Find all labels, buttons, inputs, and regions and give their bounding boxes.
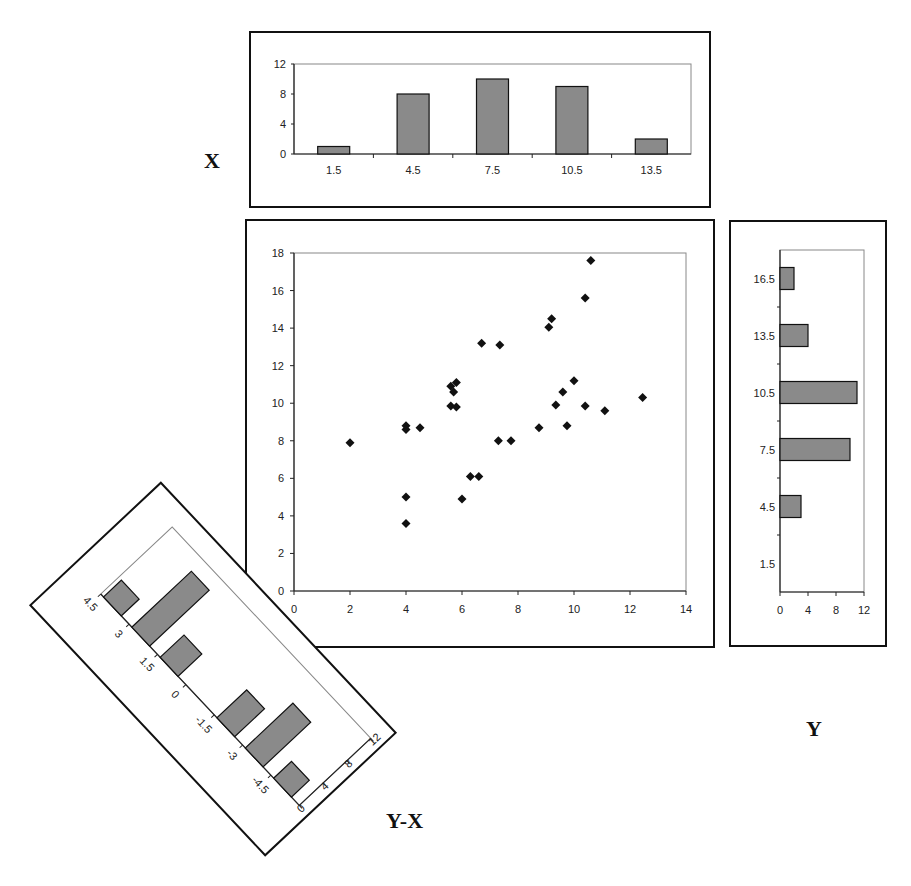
x-histogram-panel: 048121.54.57.510.513.5 <box>250 32 710 207</box>
histogram-bar <box>780 268 794 290</box>
y-minus-x-frame <box>30 483 395 856</box>
y-minus-x-histogram-panel: 048124.531.50-1.5-3-4.5 <box>30 483 395 856</box>
diamond-marker <box>581 402 590 411</box>
x-tick-label: 0 <box>291 603 297 615</box>
histogram-bar <box>635 139 667 154</box>
x-category-label: 13.5 <box>641 164 662 176</box>
y-tick-label: 16 <box>272 285 284 297</box>
yx-panel-label: Y-X <box>386 808 423 834</box>
y-tick-label: 14 <box>272 322 284 334</box>
x-tick-label: 6 <box>459 603 465 615</box>
histogram-bar <box>780 496 801 518</box>
y-category-label: 10.5 <box>754 387 775 399</box>
x-category-label: 7.5 <box>485 164 500 176</box>
x-tick-label: 2 <box>347 603 353 615</box>
histogram-bar <box>397 94 429 154</box>
x-tick-label: 8 <box>833 604 839 616</box>
y-tick-label: 6 <box>278 472 284 484</box>
diamond-marker <box>495 341 504 350</box>
y-tick-label: 12 <box>272 360 284 372</box>
y-category-label: 4.5 <box>760 501 775 513</box>
diamond-marker <box>570 376 579 385</box>
y-histogram-frame <box>730 221 886 646</box>
diamond-marker <box>535 423 544 432</box>
scatter-plot-panel: 02468101214024681012141618 <box>246 220 714 647</box>
diamond-marker <box>558 387 567 396</box>
diamond-marker <box>402 519 411 528</box>
x-category-label: 4.5 <box>405 164 420 176</box>
histogram-bar <box>318 147 350 155</box>
diamond-marker <box>544 323 553 332</box>
y-tick-label: 18 <box>272 247 284 259</box>
histogram-bar <box>477 79 509 154</box>
x-category-label: 1.5 <box>326 164 341 176</box>
x-tick-label: 8 <box>515 603 521 615</box>
diamond-marker <box>346 438 355 447</box>
x-tick-label: 12 <box>858 604 870 616</box>
plot-area-border <box>780 250 864 592</box>
y-histogram-panel: 0481216.513.510.57.54.51.5 <box>730 221 886 646</box>
histogram-bar <box>780 382 857 404</box>
y-tick-label: 0 <box>278 585 284 597</box>
y-category-label: 16.5 <box>754 273 775 285</box>
x-panel-label: X <box>204 148 220 174</box>
y-category-label: 7.5 <box>760 444 775 456</box>
diamond-marker <box>416 423 425 432</box>
diamond-marker <box>638 393 647 402</box>
y-tick-label: 8 <box>278 435 284 447</box>
x-tick-label: 12 <box>624 603 636 615</box>
x-tick-label: 4 <box>403 603 409 615</box>
y-panel-label: Y <box>806 716 822 742</box>
y-tick-label: 4 <box>280 118 286 130</box>
scatter-frame <box>246 220 714 647</box>
diamond-marker <box>494 436 503 445</box>
y-tick-label: 2 <box>278 547 284 559</box>
diamond-marker <box>600 406 609 415</box>
diamond-marker <box>507 436 516 445</box>
x-tick-label: 10 <box>568 603 580 615</box>
x-tick-label: 0 <box>777 604 783 616</box>
diamond-marker <box>563 421 572 430</box>
x-category-label: 10.5 <box>561 164 582 176</box>
y-tick-label: 10 <box>272 397 284 409</box>
diamond-marker <box>477 339 486 348</box>
diamond-marker <box>581 294 590 303</box>
histogram-bar <box>780 439 850 461</box>
diamond-marker <box>547 314 556 323</box>
y-tick-label: 12 <box>274 58 286 70</box>
diamond-marker <box>452 402 461 411</box>
y-tick-label: 8 <box>280 88 286 100</box>
diamond-marker <box>551 401 560 410</box>
y-category-label: 13.5 <box>754 330 775 342</box>
y-category-label: 1.5 <box>760 558 775 570</box>
plot-area-border <box>294 253 686 591</box>
x-tick-label: 14 <box>680 603 692 615</box>
figure-canvas: 048121.54.57.510.513.5 02468101214024681… <box>0 0 911 886</box>
y-tick-label: 4 <box>278 510 284 522</box>
x-tick-label: 4 <box>805 604 811 616</box>
diamond-marker <box>402 493 411 502</box>
histogram-bar <box>556 87 588 155</box>
diamond-marker <box>466 472 475 481</box>
diamond-marker <box>458 494 467 503</box>
y-tick-label: 0 <box>280 148 286 160</box>
histogram-bar <box>780 325 808 347</box>
diamond-marker <box>474 472 483 481</box>
diamond-marker <box>586 256 595 265</box>
rotated-chart-group: 048124.531.50-1.5-3-4.5 <box>30 483 395 856</box>
